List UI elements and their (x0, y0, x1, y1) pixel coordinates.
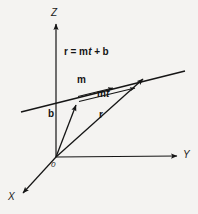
equation-label: r = mt + b (64, 47, 109, 57)
vector-m-label: m (77, 75, 86, 85)
equation-b: b (103, 46, 109, 57)
vector-line-diagram: Z Y X 0 r = mt + b m mt b r (0, 0, 198, 214)
vector-mt-t: t (106, 88, 109, 99)
z-axis-label: Z (51, 8, 57, 18)
vector-mt-m: m (97, 88, 106, 99)
x-axis-label: X (8, 192, 15, 202)
diagram-canvas (0, 0, 198, 214)
equation-m: m (79, 46, 88, 57)
origin-label: 0 (51, 161, 55, 169)
y-axis-line (56, 156, 177, 157)
vector-b-arrow (56, 105, 76, 157)
vector-mt-label: mt (97, 89, 109, 99)
vector-r-label: r (99, 110, 103, 120)
vector-b-label: b (48, 109, 54, 119)
y-axis-label: Y (183, 150, 190, 160)
